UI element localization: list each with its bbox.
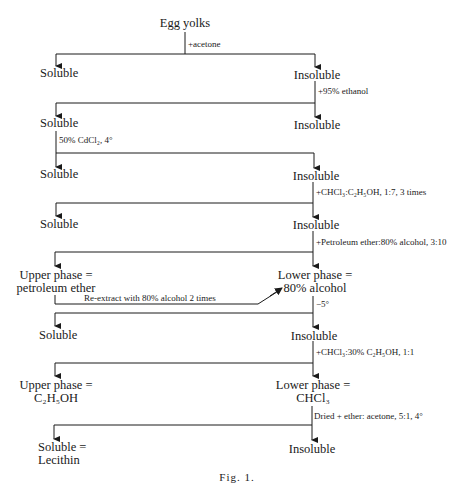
- reextract-label: Re-extract with 80% alcohol 2 times: [84, 293, 216, 303]
- node-lecithin: Lecithin: [38, 454, 80, 467]
- node-soluble: Soluble: [40, 218, 78, 231]
- node-soluble: Soluble: [40, 67, 78, 80]
- reagent-label: +Petroleum ether:80% alcohol, 3:10: [316, 237, 447, 247]
- reagent-label: +95% ethanol: [318, 86, 368, 96]
- node-lower-phase-detail: CHCl₃: [296, 392, 330, 405]
- node-upper-phase-detail: C₂H₅OH: [34, 392, 78, 405]
- node-insoluble: Insoluble: [293, 219, 340, 232]
- node-insoluble: Insoluble: [289, 443, 336, 456]
- root-node: Egg yolks: [160, 17, 210, 30]
- reagent-label: +CHCl₃:C₂H₅OH, 1:7, 3 times: [316, 187, 426, 197]
- node-lower-phase-detail: 80% alcohol: [284, 282, 347, 295]
- node-insoluble: Insoluble: [294, 119, 341, 132]
- node-insoluble: Insoluble: [291, 330, 338, 343]
- node-soluble: Soluble: [40, 117, 78, 130]
- reagent-label: 50% CdCl₂, 4°: [59, 135, 113, 145]
- reagent-label: +CHCl₃:30% C₂H₅OH, 1:1: [316, 347, 414, 357]
- node-insoluble: Insoluble: [294, 69, 341, 82]
- node-soluble: Soluble: [39, 329, 77, 342]
- reagent-label: +acetone: [188, 39, 221, 49]
- figure-caption: Fig. 1.: [219, 471, 254, 484]
- node-insoluble: Insoluble: [293, 170, 340, 183]
- reagent-label: Dried + ether: acetone, 5:1, 4°: [314, 411, 423, 421]
- reagent-label: −5°: [316, 299, 329, 309]
- node-soluble: Soluble: [40, 168, 78, 181]
